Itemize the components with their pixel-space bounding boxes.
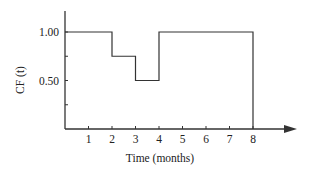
x-tick-label: 7 [227,133,233,145]
x-tick-label: 4 [156,133,162,145]
axes [65,11,297,133]
x-axis-label: Time (months) [126,152,194,165]
x-tick-label: 3 [133,133,139,145]
y-tick-label: 1.00 [39,26,59,38]
step-series [65,32,253,129]
x-tick-label: 6 [203,133,209,145]
x-tick-label: 8 [250,133,256,145]
x-tick-label: 2 [109,133,115,145]
y-tick-label: 0.50 [39,75,59,87]
x-axis-arrow-icon [284,125,297,133]
step-line [65,32,253,129]
x-tick-label: 5 [180,133,186,145]
axis-ticks: 123456780.501.00 [39,26,256,145]
step-chart: 123456780.501.00 Time (months) CF (t) [0,0,310,174]
y-axis-label: CF (t) [14,66,27,94]
x-tick-label: 1 [86,133,92,145]
